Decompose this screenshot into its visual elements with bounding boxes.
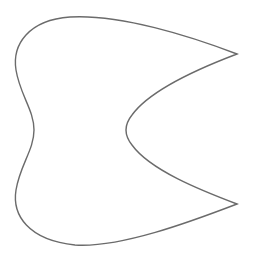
shape-diagram: [0, 0, 253, 257]
curved-outline-shape: [15, 17, 237, 246]
